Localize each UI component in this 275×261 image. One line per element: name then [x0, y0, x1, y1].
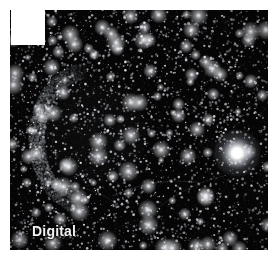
corner-blank-patch [11, 10, 45, 45]
sky-image-viewer: Digital [0, 0, 275, 261]
image-caption-label: Digital [32, 224, 76, 238]
starfield-canvas [10, 10, 268, 250]
sky-image-plate: Digital [10, 10, 268, 250]
